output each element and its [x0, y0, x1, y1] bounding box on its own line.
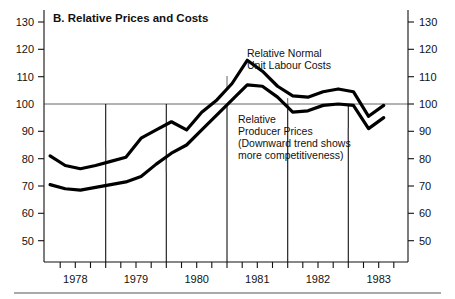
- y-axis-labels-right: 130 120 110 100 90 80 70 60 50: [419, 16, 437, 247]
- chart-canvas: 130 120 110 100 90 80 70 60 50 130 120 1…: [0, 0, 455, 299]
- x-label-1982: 1982: [306, 273, 330, 285]
- y-label-left-120: 120: [16, 43, 34, 55]
- y-axis-ticks-left: [38, 22, 44, 241]
- x-axis-labels: 1978 1979 1980 1981 1982 1983: [63, 273, 391, 285]
- y-label-left-70: 70: [22, 180, 34, 192]
- annotation-line: (Downward trend shows: [238, 137, 351, 149]
- x-label-1979: 1979: [124, 273, 148, 285]
- y-label-right-80: 80: [419, 153, 431, 165]
- y-label-left-100: 100: [16, 98, 34, 110]
- y-label-left-50: 50: [22, 235, 34, 247]
- y-label-right-120: 120: [419, 43, 437, 55]
- page-title: B. Relative Prices and Costs: [53, 12, 208, 24]
- annotation-line: Unit Labour Costs: [247, 59, 331, 71]
- y-label-right-100: 100: [419, 98, 437, 110]
- relative-prices-and-costs-chart: 130 120 110 100 90 80 70 60 50 130 120 1…: [0, 0, 455, 299]
- x-label-1980: 1980: [184, 273, 208, 285]
- y-label-right-130: 130: [419, 16, 437, 28]
- x-label-1981: 1981: [245, 273, 269, 285]
- x-axis-ticks: [60, 262, 394, 268]
- y-label-right-70: 70: [419, 180, 431, 192]
- x-label-1983: 1983: [366, 273, 390, 285]
- x-label-1978: 1978: [63, 273, 87, 285]
- y-label-right-50: 50: [419, 235, 431, 247]
- annotation-relative-normal-unit-labour-costs: Relative Normal Unit Labour Costs: [247, 47, 331, 71]
- y-label-left-80: 80: [22, 153, 34, 165]
- y-label-left-130: 130: [16, 16, 34, 28]
- plot-area-background: [44, 10, 408, 262]
- annotation-line: Relative: [238, 113, 276, 125]
- y-label-right-60: 60: [419, 207, 431, 219]
- annotation-line: Relative Normal: [247, 47, 322, 59]
- y-label-right-90: 90: [419, 125, 431, 137]
- annotation-line: more competitiveness): [238, 149, 344, 161]
- y-label-left-90: 90: [22, 125, 34, 137]
- y-label-right-110: 110: [419, 71, 437, 83]
- y-label-left-110: 110: [16, 71, 34, 83]
- y-axis-labels-left: 130 120 110 100 90 80 70 60 50: [16, 16, 34, 247]
- annotation-line: Producer Prices: [238, 125, 313, 137]
- y-label-left-60: 60: [22, 207, 34, 219]
- y-axis-ticks-right: [408, 22, 414, 241]
